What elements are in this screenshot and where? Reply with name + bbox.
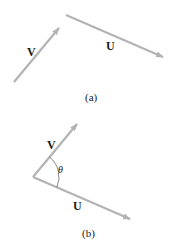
vector-v-a	[14, 28, 59, 82]
vector-u-label-b: U	[73, 200, 82, 212]
vector-v-label-b: V	[47, 139, 56, 151]
caption-a: (a)	[85, 92, 97, 103]
vector-v-label-a: V	[27, 46, 36, 58]
caption-b: (b)	[82, 228, 95, 239]
vector-diagram	[0, 0, 174, 252]
angle-theta-label: θ	[58, 165, 63, 175]
vector-u-label-a: U	[106, 40, 115, 52]
